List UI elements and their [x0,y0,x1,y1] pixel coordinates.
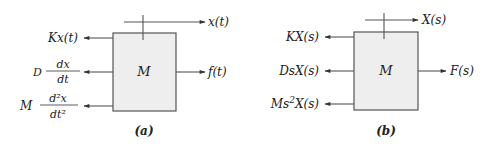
inertia-force-label-b: Ms2X(s) [270,95,320,111]
displacement-label-a: x(t) [208,15,229,29]
applied-force-label-b: F(s) [449,64,474,78]
free-body-diagram-b: M X(s) F(s) KX(s) DsX(s) Ms2X(s) (b) [270,13,474,138]
svg-text:D: D [32,66,42,79]
svg-text:M: M [19,99,33,113]
svg-text:d²x: d²x [49,92,67,105]
damper-force-label-b: DsX(s) [278,64,319,78]
damper-force-label-a: D dx dt [32,58,80,86]
spring-force-label-b: KX(s) [285,30,319,44]
caption-b: (b) [376,124,396,138]
svg-text:dx: dx [56,58,70,71]
displacement-label-b: X(s) [421,13,446,27]
mass-label-a: M [136,64,151,79]
inertia-force-label-a: M d²x dt² [19,92,78,121]
caption-a: (a) [134,124,153,138]
svg-text:dt²: dt² [50,108,66,121]
applied-force-label-a: f(t) [207,65,227,79]
free-body-diagram-a: M x(t) f(t) Kx(t) D dx dt M d²x dt² (a) [19,15,229,138]
svg-text:dt: dt [57,73,69,86]
mass-label-b: M [378,63,393,78]
spring-force-label-a: Kx(t) [47,31,78,45]
